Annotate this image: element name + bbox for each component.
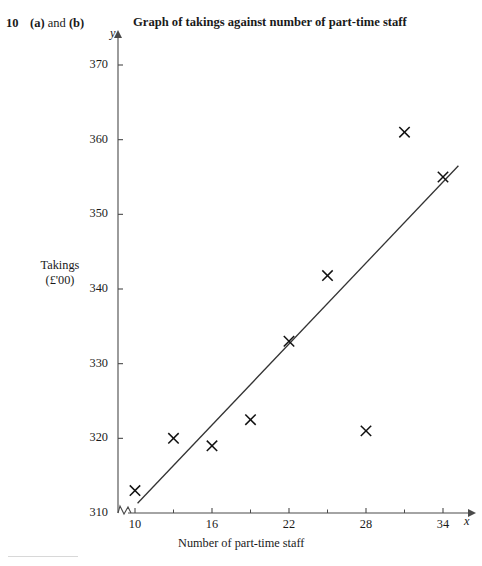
x-tick-label: 28: [346, 517, 386, 532]
x-tick-label: 22: [269, 517, 309, 532]
data-point-marker: [399, 127, 409, 137]
y-tick-label: 320: [68, 430, 108, 445]
y-tick-label: 360: [68, 132, 108, 147]
y-tick-label: 330: [68, 356, 108, 371]
x-axis-letter: x: [464, 514, 469, 529]
figure-page: 10 (a) and (b) Graph of takings against …: [0, 0, 482, 566]
y-tick-label: 370: [68, 57, 108, 72]
y-tick-label: 310: [68, 505, 108, 520]
y-tick-label: 350: [68, 206, 108, 221]
data-point-marker: [361, 426, 371, 436]
y-axis-label-line1: Takings: [18, 258, 102, 273]
y-axis-letter: y: [110, 26, 115, 41]
trend-line: [138, 166, 459, 503]
axes-layer: [114, 30, 476, 517]
x-axis-label: Number of part-time staff: [178, 536, 304, 551]
data-point-marker: [130, 485, 140, 495]
data-points-layer: [130, 127, 448, 496]
footer-divider: [8, 556, 78, 557]
data-point-marker: [438, 172, 448, 182]
ticks-layer: [118, 65, 443, 513]
data-point-marker: [207, 441, 217, 451]
x-tick-label: 16: [192, 517, 232, 532]
data-point-marker: [168, 433, 178, 443]
data-point-marker: [322, 270, 332, 280]
trend-line-layer: [138, 166, 459, 503]
y-tick-label: 340: [68, 281, 108, 296]
x-tick-label: 10: [115, 517, 155, 532]
x-tick-label: 34: [423, 517, 463, 532]
data-point-marker: [245, 414, 255, 424]
